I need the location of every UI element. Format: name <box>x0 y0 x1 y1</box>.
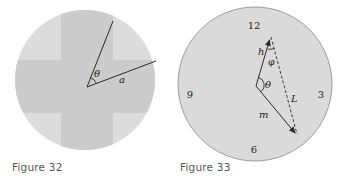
clock-number-12: 12 <box>248 20 261 31</box>
fig32-cross <box>0 0 178 178</box>
fig32-a-label: a <box>119 74 125 85</box>
label-L: L <box>290 93 298 104</box>
clock-number-9: 9 <box>187 89 193 100</box>
fig32-theta-label: θ <box>94 68 100 79</box>
figure-33: 12 9 3 6 h φ θ L m <box>178 7 332 161</box>
clock-number-3: 3 <box>318 89 324 100</box>
figure-32-caption: Figure 32 <box>12 161 63 173</box>
label-m: m <box>259 109 268 120</box>
label-theta: θ <box>265 79 271 90</box>
figure-33-caption: Figure 33 <box>180 161 231 173</box>
label-h: h <box>258 46 264 57</box>
clock-number-6: 6 <box>251 144 257 155</box>
figure-32: θ a <box>0 0 178 178</box>
label-phi: φ <box>268 56 275 67</box>
